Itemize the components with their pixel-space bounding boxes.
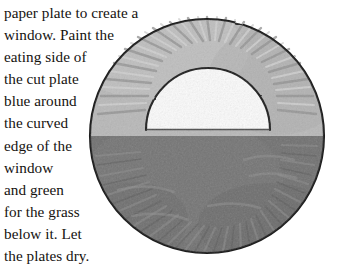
text-line: the plates dry. bbox=[4, 245, 140, 267]
text-line: for the grass bbox=[4, 201, 140, 223]
text-line: and green bbox=[4, 179, 140, 201]
text-line: eating side of bbox=[4, 46, 140, 68]
instruction-text-block: paper plate to create a window. Paint th… bbox=[4, 2, 140, 267]
text-line: window. Paint the bbox=[4, 24, 140, 46]
text-line: the curved bbox=[4, 112, 140, 134]
text-line: window bbox=[4, 157, 140, 179]
text-line: paper plate to create a bbox=[4, 2, 140, 24]
text-line: the cut plate bbox=[4, 68, 140, 90]
book-page: paper plate to create a window. Paint th… bbox=[0, 0, 340, 269]
text-line: below it. Let bbox=[4, 223, 140, 245]
text-line: edge of the bbox=[4, 135, 140, 157]
text-line: blue around bbox=[4, 90, 140, 112]
